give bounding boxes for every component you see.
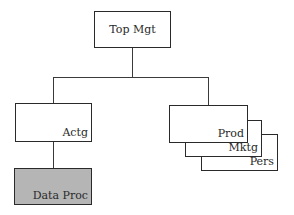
connector-top-down <box>132 48 133 77</box>
connector-to-actg <box>53 77 54 103</box>
node-prod: Prod <box>169 105 248 143</box>
node-label: Data Proc <box>33 190 88 202</box>
node-label: Top Mgt <box>95 24 170 36</box>
node-label: Actg <box>62 127 88 139</box>
connector-horizontal-bus <box>53 77 209 78</box>
node-actg: Actg <box>15 103 92 142</box>
node-data-proc: Data Proc <box>14 168 92 205</box>
node-label: Pers <box>250 156 274 168</box>
node-label: Prod <box>218 128 244 140</box>
node-top-mgt: Top Mgt <box>94 11 171 48</box>
connector-actg-to-dataproc <box>53 142 54 168</box>
node-label: Mktg <box>229 142 258 154</box>
connector-to-prod <box>208 77 209 105</box>
